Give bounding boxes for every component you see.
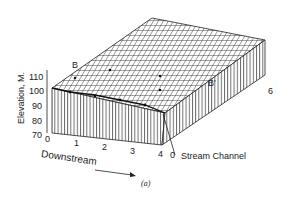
y-tick-110: 110 [29,73,43,82]
label-b-prime: B' [208,79,216,88]
stream-channel-label: Stream Channel [181,152,246,161]
depth-tick-6: 6 [268,87,273,96]
y-tick-100: 100 [29,87,44,96]
label-b: B [72,61,78,70]
x-tick-3: 3 [130,147,135,156]
x-tick-4: 4 [158,150,163,159]
y-tick-90: 90 [32,102,42,111]
y-axis-label: Elevation, M. [16,72,26,124]
y-tick-70: 70 [32,131,42,140]
depth-tick-0: 0 [170,151,175,160]
figure-caption: (a) [141,179,150,188]
x-tick-2: 2 [102,143,107,152]
y-tick-80: 80 [32,117,42,126]
x-tick-1: 1 [74,139,79,148]
x-tick-0: 0 [45,135,50,144]
terrain-block-diagram [0,0,287,199]
